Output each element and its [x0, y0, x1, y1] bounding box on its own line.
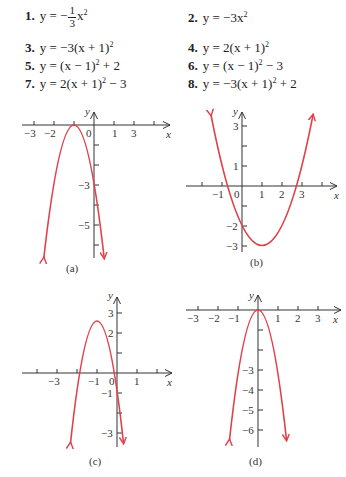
- x-tick-label: 3: [315, 312, 321, 324]
- x-tick-label: 1: [275, 312, 281, 324]
- x-tick-label: 3: [131, 127, 137, 139]
- y-tick-label: 3: [108, 307, 114, 319]
- graph-d: −3 −2 −1 1 2 3 x y −3 −4 −5 −6: [186, 289, 341, 447]
- x-tick-label: 1: [134, 375, 140, 387]
- x-tick-label: 0: [234, 188, 240, 200]
- y-axis-label: y: [232, 105, 238, 117]
- y-axis-label: y: [248, 289, 254, 301]
- x-ticks: [202, 182, 322, 186]
- x-tick-label: −3: [24, 127, 36, 139]
- y-tick-label: −1: [101, 387, 113, 399]
- y-tick-label: −3: [226, 240, 238, 252]
- x-tick-label: 0: [109, 375, 115, 387]
- x-axis-label: x: [166, 376, 172, 388]
- y-tick-label: −5: [242, 404, 254, 416]
- x-axis-label: x: [165, 128, 171, 140]
- x-axis-label: x: [332, 313, 338, 325]
- x-tick-label: −2: [208, 312, 220, 324]
- x-axis-label: x: [333, 189, 339, 201]
- x-tick-label: −1: [212, 188, 224, 200]
- y-tick-label: −4: [242, 384, 254, 396]
- caption-b: (b): [250, 256, 263, 269]
- x-tick-label: 3: [299, 188, 305, 200]
- y-ticks: [258, 330, 263, 430]
- caption-a: (a): [66, 262, 79, 275]
- graphs-canvas: −3 −2 0 1 3 x y −3 −5 (a) −1: [0, 0, 346, 477]
- x-tick-label: 0: [86, 127, 92, 139]
- x-tick-label: −3: [187, 312, 199, 324]
- y-axis-label: y: [107, 289, 113, 301]
- y-tick-label: −2: [226, 220, 238, 232]
- y-tick-label: 3: [233, 120, 239, 132]
- y-tick-label: −5: [78, 219, 90, 231]
- y-tick-label: −3: [242, 364, 254, 376]
- graph-a: −3 −2 0 1 3 x y −3 −5: [22, 105, 171, 258]
- x-tick-label: −1: [228, 312, 240, 324]
- x-tick-label: −3: [48, 375, 60, 387]
- caption-c: (c): [89, 455, 102, 468]
- x-tick-label: 2: [279, 188, 285, 200]
- y-tick-label: 2: [108, 327, 114, 339]
- y-tick-label: −3: [78, 179, 90, 191]
- graph-b: −1 0 1 2 3 x y 3 1 −2 −3: [186, 105, 339, 252]
- x-tick-label: −2: [44, 127, 56, 139]
- x-tick-label: 1: [112, 127, 118, 139]
- y-tick-label: −3: [101, 427, 113, 439]
- y-tick-label: 1: [233, 160, 239, 172]
- graph-c: −3 −1 0 1 x y 3 2 −1 −3: [22, 289, 172, 447]
- x-tick-label: 1: [259, 188, 265, 200]
- x-tick-label: −1: [88, 375, 100, 387]
- x-tick-label: 2: [295, 312, 301, 324]
- x-ticks: [37, 369, 157, 373]
- y-axis-label: y: [84, 105, 90, 117]
- caption-d: (d): [249, 455, 262, 468]
- y-tick-label: −6: [242, 424, 254, 436]
